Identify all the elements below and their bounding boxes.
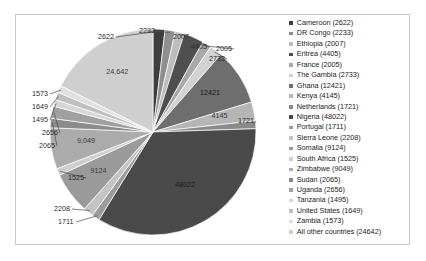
legend-item[interactable]: Zambia (1573) [289,216,409,226]
pie-value-label: 2065 [39,141,55,150]
legend-item-label: Kenya (4145) [297,91,340,101]
legend-swatch-icon [289,147,293,151]
pie-value-label: 1721 [238,116,254,125]
legend-item-label: The Gambia (2733) [297,70,359,80]
legend-swatch-icon [289,199,293,203]
legend-item-label: Zambia (1573) [297,216,344,226]
legend-item[interactable]: Netherlands (1721) [289,102,409,112]
legend-item-label: Sierra Leone (2208) [297,133,361,143]
pie-value-label: 1649 [32,102,48,111]
chart-legend: Cameroon (2622)DR Congo (2233)Ethiopia (… [289,18,409,237]
legend-item-label: Zimbabwe (9049) [297,164,353,174]
legend-item[interactable]: All other countries (24642) [289,227,409,237]
pie-value-label: 12421 [200,88,220,97]
pie-value-label: 48022 [175,180,195,189]
legend-swatch-icon [289,115,293,119]
legend-swatch-icon [289,32,293,36]
legend-item[interactable]: Ghana (12421) [289,81,409,91]
legend-item-label: Somalia (9124) [297,143,346,153]
legend-item[interactable]: United States (1649) [289,206,409,216]
legend-swatch-icon [289,63,293,67]
legend-item-label: France (2005) [297,60,342,70]
pie-value-label: 2622 [98,32,114,41]
legend-item[interactable]: DR Congo (2233) [289,28,409,38]
pie-value-label: 9124 [90,166,106,175]
legend-swatch-icon [289,84,293,88]
pie-value-label: 2656 [42,128,58,137]
legend-item[interactable]: South Africa (1525) [289,154,409,164]
legend-swatch-icon [289,178,293,182]
legend-item-label: South Africa (1525) [297,154,359,164]
legend-item-label: Nigeria (48022) [297,112,347,122]
legend-swatch-icon [289,230,293,234]
legend-item[interactable]: France (2005) [289,60,409,70]
pie-value-label: 2005 [216,44,232,53]
legend-item[interactable]: Kenya (4145) [289,91,409,101]
pie-chart-svg: 2622223320074405200527331242141451721480… [16,15,281,246]
legend-item-label: All other countries (24642) [297,227,381,237]
legend-item[interactable]: Cameroon (2622) [289,18,409,28]
legend-item-label: Portugal (1711) [297,122,346,132]
legend-item-label: Netherlands (1721) [297,102,359,112]
legend-swatch-icon [289,42,293,46]
legend-swatch-icon [289,126,293,130]
pie-chart-area: 2622223320074405200527331242141451721480… [16,15,281,246]
pie-value-label: 4405 [191,42,207,51]
legend-swatch-icon [289,136,293,140]
legend-item[interactable]: Nigeria (48022) [289,112,409,122]
legend-item[interactable]: Sudan (2065) [289,175,409,185]
legend-swatch-icon [289,53,293,57]
legend-swatch-icon [289,21,293,25]
legend-swatch-icon [289,157,293,161]
legend-item[interactable]: Ethiopia (2007) [289,39,409,49]
pie-leader-line [76,216,97,222]
pie-slices [50,29,256,235]
pie-value-label: 1525 [68,173,84,182]
legend-item-label: Ghana (12421) [297,81,345,91]
legend-item-label: Cameroon (2622) [297,18,353,28]
pie-value-label: 2007 [173,32,189,41]
pie-value-label: 1573 [32,89,48,98]
pie-value-label: 2208 [54,204,70,213]
legend-item-label: United States (1649) [297,206,363,216]
legend-item[interactable]: Uganda (2656) [289,185,409,195]
legend-swatch-icon [289,105,293,109]
pie-value-label: 9,049 [77,136,95,145]
legend-item-label: Eritrea (4405) [297,49,341,59]
legend-swatch-icon [289,168,293,172]
legend-item[interactable]: Portugal (1711) [289,122,409,132]
legend-swatch-icon [289,188,293,192]
legend-item-label: Ethiopia (2007) [297,39,346,49]
pie-value-label: 24,642 [106,67,128,76]
legend-item[interactable]: Somalia (9124) [289,143,409,153]
pie-value-label: 2733 [209,54,225,63]
legend-item[interactable]: Tanzania (1495) [289,195,409,205]
legend-swatch-icon [289,74,293,78]
legend-item-label: Sudan (2065) [297,175,341,185]
pie-value-label: 4145 [212,111,228,120]
chart-frame: 2622223320074405200527331242141451721480… [15,14,410,245]
pie-value-label: 1495 [32,115,48,124]
legend-item-label: Tanzania (1495) [297,195,349,205]
legend-item[interactable]: The Gambia (2733) [289,70,409,80]
legend-item[interactable]: Zimbabwe (9049) [289,164,409,174]
legend-swatch-icon [289,220,293,224]
legend-swatch-icon [289,209,293,213]
legend-swatch-icon [289,94,293,98]
legend-item-label: DR Congo (2233) [297,28,353,38]
pie-value-label: 2233 [139,26,155,35]
legend-item[interactable]: Eritrea (4405) [289,49,409,59]
legend-item[interactable]: Sierra Leone (2208) [289,133,409,143]
pie-value-label: 1711 [58,217,73,226]
legend-item-label: Uganda (2656) [297,185,345,195]
